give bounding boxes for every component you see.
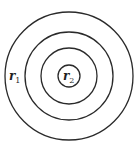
label-r1: r1 xyxy=(9,69,20,85)
label-r1-subscript: 1 xyxy=(15,76,20,85)
label-r2: r2 xyxy=(63,69,74,85)
label-r2-subscript: 2 xyxy=(69,76,74,85)
concentric-circles-diagram: r1 r2 xyxy=(0,0,140,148)
